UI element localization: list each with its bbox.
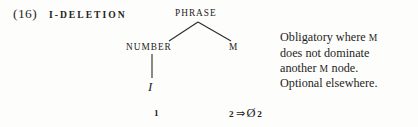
- condition-note: Obligatory where M does not dominate ano…: [280, 30, 418, 91]
- tree-terminal-i: I: [148, 79, 152, 95]
- structural-index-2: 2: [229, 109, 234, 119]
- tree-node-phrase: PHRASE: [175, 8, 217, 18]
- condition-note-line-1-text: Obligatory where: [280, 30, 369, 44]
- condition-note-line-3: another M node.: [280, 61, 418, 77]
- condition-note-line-3-prefix: another: [280, 61, 320, 75]
- rewrite-rule: 2⇒Ø2: [229, 106, 262, 121]
- example-number: (16): [13, 6, 37, 22]
- tree-node-number: NUMBER: [126, 42, 172, 52]
- tree-node-m: M: [229, 42, 238, 52]
- structural-index-1: 1: [154, 108, 159, 118]
- linguistics-rule-figure: (16) I-DELETION PHRASE NUMBER M I 1 2⇒Ø2…: [0, 0, 418, 127]
- condition-note-line-4: Optional elsewhere.: [280, 76, 418, 91]
- rule-name-heading: I-DELETION: [49, 9, 127, 20]
- null-symbol: Ø: [247, 106, 258, 120]
- result-index: 2: [257, 109, 262, 119]
- condition-note-m-symbol-2: M: [320, 63, 329, 74]
- condition-note-line-1: Obligatory where M: [280, 30, 418, 46]
- double-arrow-icon: ⇒: [234, 107, 247, 119]
- condition-note-line-3-suffix: node.: [329, 61, 359, 75]
- condition-note-line-2: does not dominate: [280, 46, 418, 61]
- condition-note-m-symbol-1: M: [369, 32, 378, 43]
